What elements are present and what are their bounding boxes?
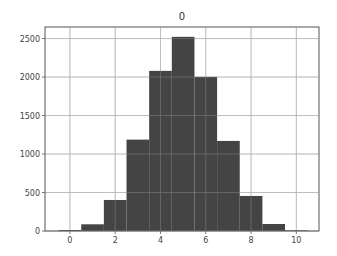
y-tick-label: 1000 bbox=[20, 150, 40, 159]
histogram-bars bbox=[59, 37, 308, 231]
x-tick-label: 6 bbox=[203, 236, 208, 245]
y-tick-label: 0 bbox=[35, 227, 40, 236]
x-tick-label: 10 bbox=[291, 236, 301, 245]
y-tick-label: 2500 bbox=[20, 35, 40, 44]
histogram-bar bbox=[172, 37, 195, 231]
x-axis: 0246810 bbox=[67, 231, 301, 245]
x-tick-label: 0 bbox=[67, 236, 72, 245]
histogram-bar bbox=[81, 224, 104, 231]
y-tick-label: 1500 bbox=[20, 112, 40, 121]
histogram-bar bbox=[127, 140, 150, 231]
x-tick-label: 8 bbox=[249, 236, 254, 245]
chart-title: 0 bbox=[179, 11, 185, 22]
histogram-bar bbox=[217, 141, 240, 231]
histogram-chart: 0 0246810 05001000150020002500 bbox=[0, 0, 337, 256]
x-tick-label: 2 bbox=[113, 236, 118, 245]
y-axis: 05001000150020002500 bbox=[20, 35, 45, 236]
histogram-bar bbox=[262, 224, 285, 231]
y-tick-label: 500 bbox=[25, 189, 40, 198]
y-tick-label: 2000 bbox=[20, 73, 40, 82]
x-tick-label: 4 bbox=[158, 236, 163, 245]
